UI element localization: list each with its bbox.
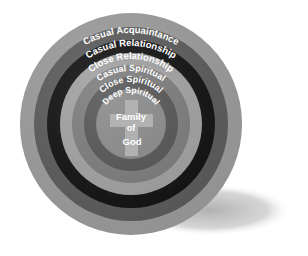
center-label-line-2: of — [127, 123, 136, 133]
center-label-line-1: Family — [116, 111, 147, 122]
center-label-line-3: God — [123, 136, 142, 147]
concentric-diagram: Casual Acquaintance Casual Relationship … — [0, 0, 308, 256]
